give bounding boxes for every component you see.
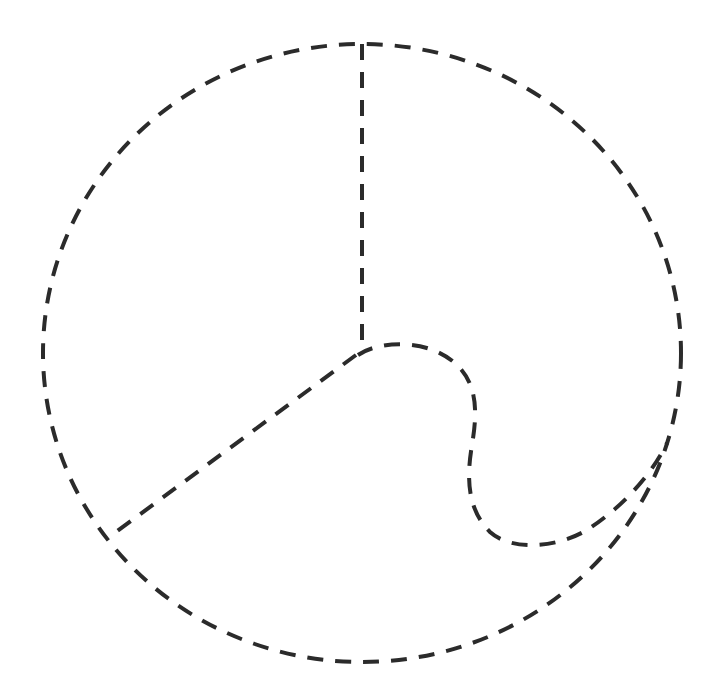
- left-radius-line: [116, 355, 356, 532]
- diagram-canvas: [0, 0, 716, 697]
- s-curve-path: [358, 344, 667, 545]
